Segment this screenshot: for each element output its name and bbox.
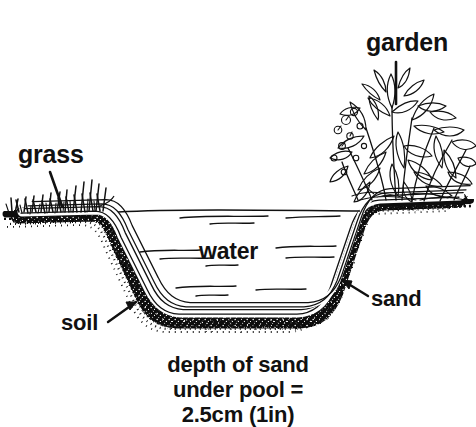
label-soil: soil xyxy=(61,310,98,336)
caption-line-3: 2.5cm (1in) xyxy=(0,402,476,427)
label-grass: grass xyxy=(18,140,84,169)
caption-line-1: depth of sand xyxy=(0,352,476,377)
label-water: water xyxy=(199,238,258,265)
illustration-page: grass garden water sand soil depth of sa… xyxy=(0,0,476,427)
caption-block: depth of sand under pool = 2.5cm (1in) xyxy=(0,352,476,427)
label-sand: sand xyxy=(371,286,422,312)
label-garden: garden xyxy=(366,28,448,57)
caption-line-2: under pool = xyxy=(0,377,476,402)
